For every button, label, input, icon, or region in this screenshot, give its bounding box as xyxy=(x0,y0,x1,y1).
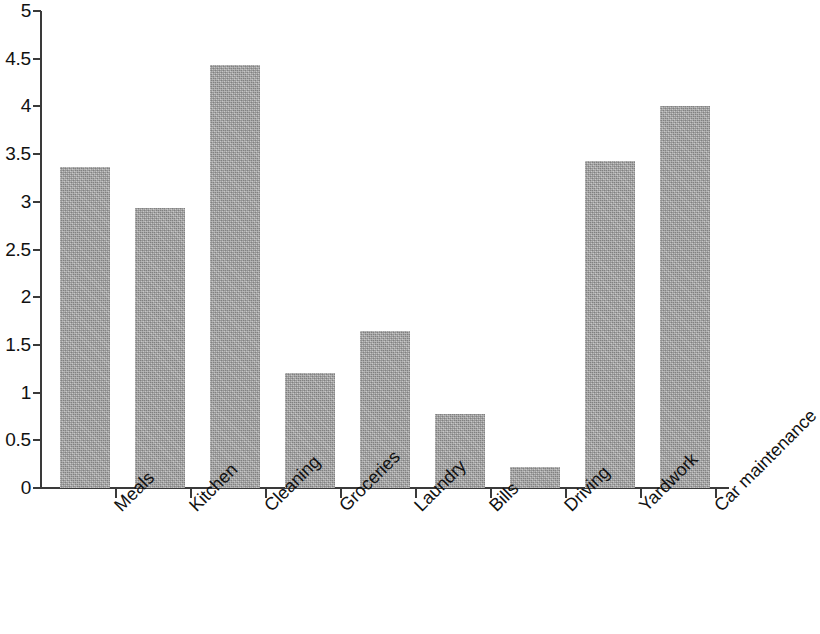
y-axis-tick xyxy=(33,58,41,60)
y-axis-tick xyxy=(33,105,41,107)
y-axis-tick-label: 1 xyxy=(0,383,31,402)
y-axis-tick-label: 0.5 xyxy=(0,430,31,449)
bar xyxy=(210,65,260,488)
y-axis-tick-label: 4 xyxy=(0,96,31,115)
bar xyxy=(510,467,560,488)
y-axis-tick xyxy=(33,153,41,155)
y-axis-tick xyxy=(33,344,41,346)
y-axis-tick xyxy=(33,201,41,203)
y-axis-tick-label: 1.5 xyxy=(0,335,31,354)
x-axis-tick-label: Car maintenance xyxy=(711,406,820,515)
y-axis-tick xyxy=(33,392,41,394)
y-axis-tick-label-text: 2 xyxy=(0,287,31,306)
y-axis-tick-label: 2.5 xyxy=(0,240,31,259)
y-axis-tick-label-text: 3 xyxy=(0,192,31,211)
y-axis-tick-label: 3 xyxy=(0,192,31,211)
y-axis-tick-label: 2 xyxy=(0,287,31,306)
y-axis-tick-label-text: 2.5 xyxy=(0,240,31,259)
y-axis-tick xyxy=(33,10,41,12)
bar xyxy=(585,161,635,488)
y-axis-tick-label: 4.5 xyxy=(0,49,31,68)
y-axis-tick-label: 5 xyxy=(0,1,31,20)
bar xyxy=(135,208,185,488)
y-axis-tick xyxy=(33,487,41,489)
bar xyxy=(60,167,110,488)
y-axis-tick-label-text: 1 xyxy=(0,383,31,402)
y-axis-tick-label-text: 5 xyxy=(0,1,31,20)
bar xyxy=(660,106,710,488)
y-axis-tick-label-text: 0.5 xyxy=(0,430,31,449)
y-axis-tick-label-text: 4.5 xyxy=(0,49,31,68)
y-axis-tick xyxy=(33,296,41,298)
y-axis-tick-label-text: 1.5 xyxy=(0,335,31,354)
y-axis-tick-label-text: 0 xyxy=(0,478,31,497)
y-axis-tick-label: 0 xyxy=(0,478,31,497)
y-axis-tick xyxy=(33,249,41,251)
y-axis-tick-label-text: 4 xyxy=(0,96,31,115)
y-axis-tick-label-text: 3.5 xyxy=(0,144,31,163)
y-axis-tick xyxy=(33,439,41,441)
y-axis-tick-label: 3.5 xyxy=(0,144,31,163)
